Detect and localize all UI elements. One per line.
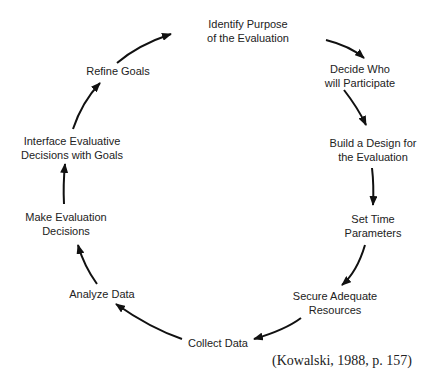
step-collect-data: Collect Data — [188, 336, 248, 350]
step-label-line1: Make Evaluation — [25, 210, 106, 224]
cycle-arrows — [0, 0, 435, 385]
step-label-line1: Identify Purpose — [207, 17, 289, 31]
arrow-refine-to-identify — [117, 34, 171, 63]
arrow-make-to-interface — [64, 164, 65, 204]
arrow-identify-to-decide — [326, 40, 364, 58]
arrow-analyze-to-make — [78, 245, 97, 284]
arrow-decide-to-build — [344, 90, 366, 125]
step-label-line2: Decisions with Goals — [21, 148, 123, 162]
step-build-design: Build a Design for the Evaluation — [330, 136, 417, 164]
step-label-line2: the Evaluation — [330, 150, 417, 164]
step-interface-decisions: Interface Evaluative Decisions with Goal… — [21, 134, 123, 162]
citation: (Kowalski, 1988, p. 157) — [272, 353, 412, 369]
arrow-build-to-settime — [372, 168, 373, 205]
step-identify-purpose: Identify Purpose of the Evaluation — [207, 17, 289, 45]
step-label-line1: Interface Evaluative — [21, 134, 123, 148]
step-decide-who: Decide Who will Participate — [325, 62, 395, 90]
step-set-time: Set Time Parameters — [345, 212, 402, 240]
arrow-interface-to-refine — [73, 83, 100, 129]
step-refine-goals: Refine Goals — [86, 64, 150, 78]
arrow-collect-to-analyze — [116, 304, 182, 339]
step-label-line2: will Participate — [325, 76, 395, 90]
step-make-decisions: Make Evaluation Decisions — [25, 210, 106, 238]
step-label-line1: Refine Goals — [86, 64, 150, 78]
arrow-settime-to-secure — [342, 245, 365, 285]
step-label-line1: Decide Who — [325, 62, 395, 76]
step-analyze-data: Analyze Data — [69, 287, 134, 301]
step-label-line2: Decisions — [25, 224, 106, 238]
step-label-line2: Parameters — [345, 226, 402, 240]
step-secure-resources: Secure Adequate Resources — [293, 289, 377, 317]
step-label-line1: Build a Design for — [330, 136, 417, 150]
step-label-line2: Resources — [293, 303, 377, 317]
step-label-line1: Analyze Data — [69, 287, 134, 301]
step-label-line1: Secure Adequate — [293, 289, 377, 303]
step-label-line1: Set Time — [345, 212, 402, 226]
step-label-line1: Collect Data — [188, 336, 248, 350]
step-label-line2: of the Evaluation — [207, 31, 289, 45]
arrow-secure-to-collect — [254, 318, 301, 339]
